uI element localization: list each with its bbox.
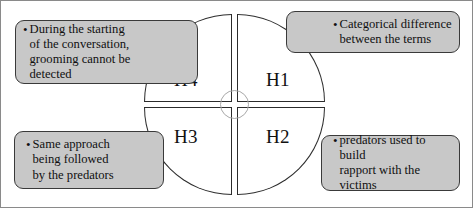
callout-h1-text: Categorical difference between the terms	[340, 17, 452, 47]
quadrant-label-h1: H1	[266, 69, 290, 91]
callout-h3-text: Same approach being followed by the pred…	[33, 137, 114, 183]
hypotheses-quadrant-figure: H4 H1 H3 H2 • During the starting of the…	[0, 0, 473, 208]
callout-h4-text: During the starting of the conversation,…	[30, 22, 131, 83]
quadrant-label-h3: H3	[174, 126, 198, 148]
quadrant-h2[interactable]	[237, 107, 325, 195]
hub-circle-icon	[220, 90, 249, 119]
callout-h2: • predators used to build rapport with t…	[321, 135, 460, 191]
callout-h2-text: predators used to build rapport with the…	[340, 133, 452, 194]
callout-h3: • Same approach being followed by the pr…	[14, 131, 164, 189]
callout-h4: • During the starting of the conversatio…	[15, 20, 198, 84]
callout-h1: • Categorical difference between the ter…	[286, 11, 460, 53]
quadrant-label-h2: H2	[266, 126, 290, 148]
